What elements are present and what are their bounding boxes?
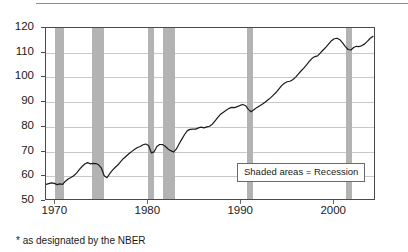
- y-axis-tick-mark: [41, 126, 45, 127]
- x-axis-tick-mark: [240, 200, 241, 204]
- chart-figure: 5060708090100110120 1970198019902000 Sha…: [0, 0, 408, 252]
- y-axis-tick-label: 70: [0, 145, 34, 157]
- x-axis-tick-mark: [333, 200, 334, 204]
- legend-label: Shaded areas = Recession: [244, 166, 358, 177]
- y-axis-tick-mark: [41, 52, 45, 53]
- y-axis-tick-mark: [41, 151, 45, 152]
- y-axis-tick-label: 80: [0, 120, 34, 132]
- y-axis-tick-label: 60: [0, 169, 34, 181]
- y-axis-tick-mark: [41, 101, 45, 102]
- x-axis-tick-label: 1970: [32, 205, 76, 217]
- y-axis-tick-label: 100: [0, 70, 34, 82]
- y-axis-tick-label: 120: [0, 21, 34, 33]
- y-axis-tick-mark: [41, 76, 45, 77]
- y-axis-tick-label: 50: [0, 194, 34, 206]
- top-rule-divider: [36, 3, 408, 4]
- footnote-text: * as designated by the NBER: [16, 235, 146, 246]
- y-axis-tick-mark: [41, 27, 45, 28]
- y-axis-tick-label: 110: [0, 46, 34, 58]
- x-axis-tick-label: 1980: [125, 205, 169, 217]
- y-axis-tick-mark: [41, 200, 45, 201]
- x-axis-tick-mark: [54, 200, 55, 204]
- y-axis-tick-mark: [41, 175, 45, 176]
- x-axis-tick-mark: [147, 200, 148, 204]
- y-axis-tick-label: 90: [0, 95, 34, 107]
- x-axis-tick-label: 2000: [311, 205, 355, 217]
- x-axis-tick-label: 1990: [218, 205, 262, 217]
- legend-box: Shaded areas = Recession: [237, 163, 365, 182]
